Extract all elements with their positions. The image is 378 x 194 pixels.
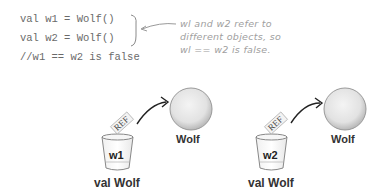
wolf-object-label-right: Wolf (331, 133, 355, 145)
variable-type-left: val Wolf (94, 176, 140, 190)
ref-tag-right: REF (264, 112, 287, 134)
ref-arrow-left-icon (137, 97, 168, 124)
wolf-object-right-icon (324, 88, 366, 130)
ref-tag-left: REF (110, 112, 133, 134)
wolf-object-label-left: Wolf (176, 133, 200, 145)
code-line-3: //w1 == w2 is false (20, 51, 140, 63)
code-line-2: val w2 = Wolf() (20, 32, 115, 44)
code-bracket-icon (131, 15, 136, 46)
variable-type-right: val Wolf (248, 176, 294, 190)
wolf-object-left-icon (170, 88, 212, 130)
annotation-line-2: different objects, so (180, 31, 281, 43)
variable-name-left: w1 (109, 149, 124, 161)
annotation-line-3: wl == w2 is false. (180, 44, 271, 56)
annotation-arrow-icon (141, 24, 176, 31)
code-line-1: val w1 = Wolf() (20, 13, 115, 25)
ref-arrow-right-icon (291, 98, 322, 123)
variable-name-right: w2 (263, 149, 278, 161)
annotation-line-1: wl and w2 refer to (180, 18, 272, 30)
